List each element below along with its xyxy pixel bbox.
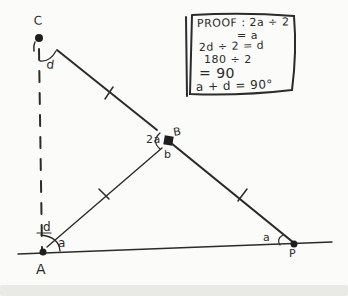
label-point-b-upper: B [172,125,182,139]
label-point-c: C [33,13,43,28]
label-angle-a-at-a: a [58,236,66,250]
label-angle-a-at-p: a [263,231,270,244]
proof-box-left-double-edge [186,17,187,96]
proof-line-6: a + d = 90° [196,77,274,94]
dashed-line-c-to-a [39,49,42,249]
label-angle-d-at-c: d [46,57,56,72]
label-point-a: A [36,261,46,277]
proof-box: PROOF : 2a ÷ 2 = a 2d ÷ 2 = d 180 ÷ 2 = … [186,14,295,96]
proof-line-3: 2d ÷ 2 = d [199,39,265,54]
worksheet-photo: C d B 2a b d a A a P PROOF : 2a ÷ 2 = a … [0,0,348,296]
dot-point-c [35,34,43,42]
label-angle-d-at-a: d [43,220,51,234]
bottom-strip [0,285,348,296]
dot-point-a [40,249,47,256]
line-b-to-p [171,143,294,243]
label-point-b-lower: b [164,148,171,161]
line-a-to-b [47,148,162,247]
proof-line-1: PROOF : 2a ÷ 2 [197,15,290,30]
tick-mark-bp [238,189,247,201]
pen-stroke-below-c [34,42,35,51]
label-point-p: P [289,247,296,260]
geometry-diagram: C d B 2a b d a A a P PROOF : 2a ÷ 2 = a … [0,0,348,296]
line-c-to-b [57,50,157,130]
label-angle-2a-at-b: 2a [146,133,161,146]
dot-point-b [163,135,173,145]
